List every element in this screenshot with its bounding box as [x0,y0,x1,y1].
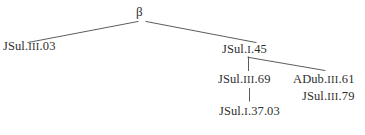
node-jsul-i-37-03-prefix: JSul. [219,104,244,118]
stemma-diagram: β JSul.III.03 JSul.I.45 JSul.III.69 ADub… [0,0,365,135]
node-jsul-iii-03-number: .03 [40,39,56,53]
node-jsul-i-45: JSul.I.45 [222,43,267,56]
node-jsul-iii-69: JSul.III.69 [218,73,271,86]
node-jsul-iii-03: JSul.III.03 [3,40,56,53]
node-jsul-i-45-number: .45 [251,42,267,56]
node-jsul-iii-79-prefix: JSul. [302,89,327,103]
node-adub-iii-61-prefix: ADub. [293,72,327,86]
node-jsul-iii-79: JSul.III.79 [302,90,355,103]
edge-jsul-i-45-to-adub-iii-61 [248,57,325,70]
edge-beta-to-jsul-i-45 [146,22,256,43]
node-jsul-i-37-03-number: .37.03 [248,104,280,118]
node-jsul-i-45-prefix: JSul. [222,42,247,56]
node-adub-iii-61-numeral: III [327,74,338,85]
node-jsul-iii-79-numeral: III [327,91,338,102]
node-jsul-iii-03-prefix: JSul. [3,39,28,53]
node-jsul-iii-69-number: .69 [255,72,271,86]
node-jsul-iii-69-prefix: JSul. [218,72,243,86]
node-jsul-iii-03-numeral: III [28,41,39,52]
node-adub-iii-61-number: .61 [339,72,355,86]
stemma-edges [0,0,365,135]
node-beta: β [136,5,143,18]
node-jsul-iii-69-numeral: III [243,74,254,85]
node-jsul-iii-79-number: .79 [339,89,355,103]
node-jsul-i-37-03: JSul.I.37.03 [219,105,280,118]
node-beta-label: β [136,4,143,19]
node-adub-iii-61: ADub.III.61 [293,73,355,86]
